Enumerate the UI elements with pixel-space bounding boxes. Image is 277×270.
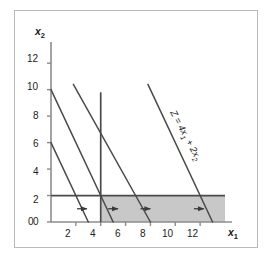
x-tick-4: 4: [90, 228, 96, 239]
y-axis-title: x2: [35, 25, 45, 40]
y-tick-12: 12: [27, 53, 38, 64]
y-tick-0: 0: [33, 216, 39, 227]
x-tick-6: 6: [115, 228, 121, 239]
x-tick-12: 12: [187, 228, 198, 239]
objective-contour-line: [51, 90, 113, 222]
objective-contour-line: [51, 143, 88, 222]
chart-geometry-layer: [47, 42, 232, 226]
y-tick-4: 4: [33, 166, 39, 177]
x-axis-title: x1: [228, 226, 238, 241]
x-tick-2: 2: [65, 228, 71, 239]
x-tick-8: 8: [140, 228, 146, 239]
y-tick-6: 6: [33, 138, 39, 149]
y-tick-8: 8: [33, 110, 39, 121]
y-tick-2: 2: [33, 194, 39, 205]
y-tick-10: 10: [27, 81, 38, 92]
linear-programming-figure: 0 0 2 4 6 8 10 12 2 4 6 8 10 12 x2 x1 Z …: [0, 0, 277, 270]
x-tick-10: 10: [162, 228, 173, 239]
